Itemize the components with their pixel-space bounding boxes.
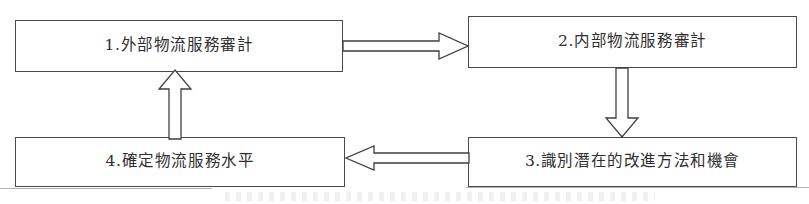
scan-artifact-rule-right: [466, 187, 809, 188]
scan-artifact-cropped-caption: [225, 192, 655, 201]
arrow-left-icon: [345, 145, 469, 171]
process-box-3[interactable]: 3.識別潛在的改進方法和機會: [468, 137, 797, 187]
process-box-1[interactable]: 1.外部物流服務審計: [15, 20, 343, 72]
diagram-canvas: 1.外部物流服務審計 2.内部物流服務審計 3.識別潛在的改進方法和機會 4.確…: [0, 0, 809, 204]
arrow-up-icon: [157, 69, 193, 139]
process-box-2-label: 2.内部物流服務審計: [558, 34, 707, 50]
arrow-down-icon: [604, 68, 640, 138]
process-box-4-label: 4.確定物流服務水平: [106, 154, 255, 170]
scan-artifact-rule-left: [0, 188, 212, 189]
arrow-right-icon: [343, 32, 469, 60]
process-box-2[interactable]: 2.内部物流服務審計: [468, 16, 797, 68]
process-box-4[interactable]: 4.確定物流服務水平: [15, 137, 345, 187]
process-box-1-label: 1.外部物流服務審計: [105, 38, 254, 54]
process-box-3-label: 3.識別潛在的改進方法和機會: [525, 154, 740, 170]
